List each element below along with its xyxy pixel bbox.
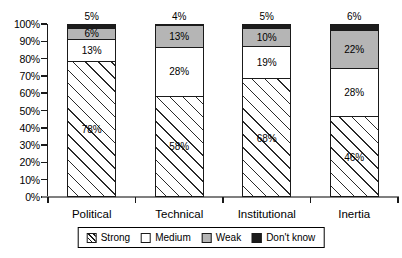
segment-value-label-top: 5% [67, 11, 116, 23]
legend-swatch-black [252, 233, 262, 243]
segment-value-label: 78% [82, 124, 102, 135]
segment-value-label: 58% [169, 141, 189, 152]
bar-segment-strong: 46% [330, 117, 379, 197]
bar-segment-strong: 78% [67, 62, 116, 197]
y-axis-tick-label: 10% [2, 174, 40, 186]
legend-label: Weak [216, 232, 241, 243]
legend-label: Strong [101, 232, 130, 243]
x-axis-tick-mark [135, 197, 137, 203]
legend-label: Don't know [266, 232, 315, 243]
bar-technical: 58%28%13% [155, 24, 204, 197]
bar-segment-strong: 68% [242, 79, 291, 197]
segment-value-label: 13% [82, 45, 102, 56]
category-label-technical: Technical [136, 207, 224, 221]
segment-value-label: 10% [257, 32, 277, 43]
segment-value-label: 68% [257, 133, 277, 144]
bar-segment-don-t-know [155, 24, 204, 26]
segment-value-label-top: 6% [330, 11, 379, 23]
segment-value-label: 6% [85, 28, 99, 39]
category-label-political: Political [48, 207, 136, 221]
bar-inertia: 46%28%22% [330, 24, 379, 197]
y-axis-tick-label: 70% [2, 70, 40, 82]
segment-value-label: 22% [344, 44, 364, 55]
x-axis-tick-mark [222, 197, 224, 203]
bar-political: 78%13%6% [67, 24, 116, 197]
category-label-inertia: Inertia [311, 207, 399, 221]
bar-segment-don-t-know [67, 24, 116, 29]
stacked-bar-chart-figure: 0%10%20%30%40%50%60%70%80%90%100% 78%13%… [0, 0, 402, 258]
y-axis-tick-label: 0% [2, 191, 40, 203]
bar-segment-medium: 19% [242, 47, 291, 80]
legend-entry-weak: Weak [202, 232, 241, 243]
bar-institutional: 68%19%10% [242, 24, 291, 197]
legend-entry-strong: Strong [87, 232, 130, 243]
legend-entry-don-t-know: Don't know [252, 232, 315, 243]
segment-value-label-top: 5% [242, 11, 291, 23]
segment-value-label: 13% [169, 31, 189, 42]
bar-segment-weak: 22% [330, 31, 379, 69]
y-axis-tick-label: 100% [2, 18, 40, 30]
bar-segment-medium: 28% [155, 48, 204, 96]
segment-value-label: 28% [169, 66, 189, 77]
bar-segment-strong: 58% [155, 97, 204, 197]
y-axis-tick-label: 50% [2, 105, 40, 117]
y-axis-tick-label: 40% [2, 122, 40, 134]
y-axis-line [47, 24, 49, 203]
x-axis-tick-mark [47, 197, 49, 203]
legend-swatch-hatch [87, 233, 97, 243]
y-axis-tick-label: 30% [2, 139, 40, 151]
segment-value-label: 19% [257, 57, 277, 68]
chart-legend: StrongMediumWeakDon't know [78, 227, 325, 248]
x-axis-tick-mark [310, 197, 312, 203]
legend-label: Medium [155, 232, 191, 243]
bar-segment-don-t-know [242, 24, 291, 29]
y-axis-tick-label: 20% [2, 156, 40, 168]
bar-segment-weak: 6% [67, 29, 116, 39]
legend-entry-medium: Medium [141, 232, 191, 243]
segment-value-label: 28% [344, 87, 364, 98]
legend-swatch-gray [202, 233, 212, 243]
bar-segment-don-t-know [330, 24, 379, 31]
legend-swatch-white [141, 233, 151, 243]
bar-segment-medium: 28% [330, 69, 379, 117]
y-axis-tick-label: 80% [2, 53, 40, 65]
bar-segment-medium: 13% [67, 40, 116, 62]
x-axis-tick-mark [397, 197, 399, 203]
category-label-institutional: Institutional [223, 207, 311, 221]
bar-segment-weak: 13% [155, 26, 204, 48]
y-axis-tick-label: 90% [2, 35, 40, 47]
y-axis-tick-label: 60% [2, 87, 40, 99]
segment-value-label: 46% [344, 152, 364, 163]
bar-segment-weak: 10% [242, 29, 291, 46]
segment-value-label-top: 4% [155, 11, 204, 23]
